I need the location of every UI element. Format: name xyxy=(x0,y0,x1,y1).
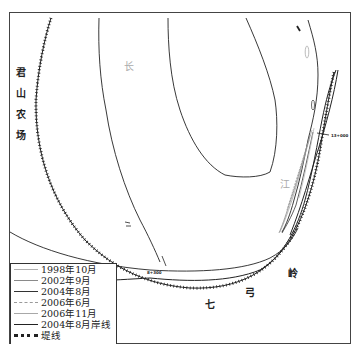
label-farm-1: 君 xyxy=(16,64,26,79)
legend-label: 堤线 xyxy=(41,330,61,341)
label-qi: 七 xyxy=(205,296,215,311)
bank-line-outer xyxy=(40,70,336,280)
legend-swatch xyxy=(14,291,38,292)
legend-swatch xyxy=(14,313,38,314)
legend-swatch xyxy=(14,269,38,270)
chainage-right: 13+000 xyxy=(331,133,348,138)
label-ling: 岭 xyxy=(288,265,298,280)
left-bank xyxy=(99,18,160,262)
chainage-left: 8+300 xyxy=(147,270,161,275)
legend-item: 2006年6月 xyxy=(11,297,116,308)
island-dark xyxy=(297,26,300,31)
legend-swatch xyxy=(14,302,38,303)
island-small xyxy=(305,46,309,58)
chainage-tick-left xyxy=(162,256,166,266)
island-mid xyxy=(312,100,315,110)
label-river-jiang: 江 xyxy=(280,176,290,191)
legend-item: 堤线 xyxy=(11,330,116,341)
dike-swatch xyxy=(14,334,38,337)
legend-item: 2004年8月岸线 xyxy=(11,319,116,330)
legend-label: 2006年6月 xyxy=(41,297,91,308)
legend-swatch xyxy=(14,324,38,325)
label-gong: 弓 xyxy=(245,284,255,299)
label-farm-3: 农 xyxy=(16,106,26,121)
legend-label: 2006年11月 xyxy=(41,308,97,319)
legend-label: 2002年9月 xyxy=(41,275,91,286)
label-river-chang: 长 xyxy=(124,58,134,73)
right-bank-1 xyxy=(282,20,318,232)
legend-item: 2006年11月 xyxy=(11,308,116,319)
left-bank-notch xyxy=(125,222,131,226)
legend-label: 2004年8月岸线 xyxy=(41,319,111,330)
legend-label: 2004年8月 xyxy=(41,286,91,297)
legend-label: 1998年10月 xyxy=(41,264,97,275)
dike-hatch xyxy=(36,18,334,288)
legend: 1998年10月 2002年9月 2004年8月 2006年6月 2006年11… xyxy=(10,263,117,344)
legend-item: 2004年8月 xyxy=(11,286,116,297)
label-farm-2: 山 xyxy=(16,85,26,100)
label-farm-4: 场 xyxy=(16,127,26,142)
legend-item: 2002年9月 xyxy=(11,275,116,286)
legend-item: 1998年10月 xyxy=(11,264,116,275)
inner-bend xyxy=(168,18,277,177)
legend-swatch xyxy=(14,280,38,281)
dike-line xyxy=(36,18,334,288)
